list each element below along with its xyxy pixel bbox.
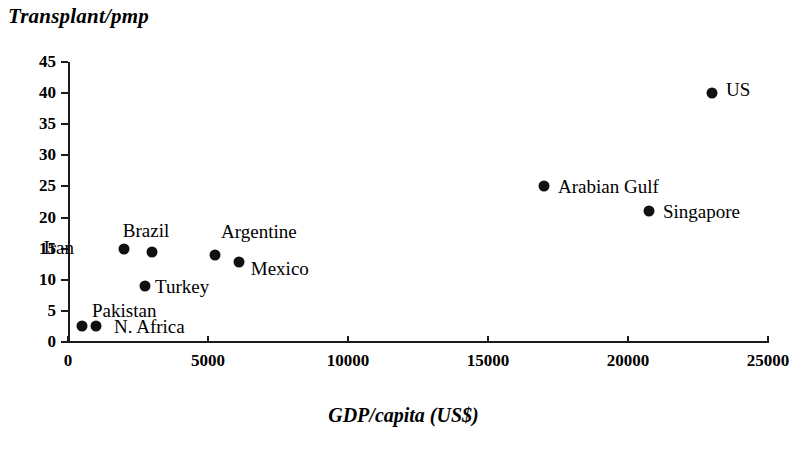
y-tick-mark [61,185,68,187]
y-tick-mark [61,310,68,312]
data-point-label: Iran [43,237,74,258]
chart-page: Transplant/pmp 051015202530354045 050001… [0,0,807,469]
x-tick-mark [347,336,349,343]
y-tick-mark [61,92,68,94]
data-point [707,88,718,99]
x-tick-mark [207,336,209,343]
y-tick-label: 30 [10,146,56,163]
data-point-label: Argentine [221,221,297,242]
y-tick-label: 20 [10,209,56,226]
y-tick-label: 25 [10,177,56,194]
y-axis-line [68,62,70,343]
x-tick-label: 0 [64,352,73,370]
data-point [539,181,550,192]
data-point [140,281,151,292]
x-axis-line [68,341,769,343]
x-tick-label: 25000 [747,352,790,370]
y-tick-mark [61,61,68,63]
x-tick-mark [67,336,69,343]
data-point-label: US [726,79,750,100]
x-tick-label: 10000 [327,352,370,370]
y-tick-mark [61,154,68,156]
data-point [147,246,158,257]
data-point-label: Arabian Gulf [558,176,659,197]
data-point [233,257,244,268]
x-tick-mark [767,336,769,343]
y-tick-label: 0 [10,333,56,350]
y-tick-label: 5 [10,302,56,319]
x-tick-label: 20000 [607,352,650,370]
data-point [77,321,88,332]
y-tick-mark [61,123,68,125]
y-tick-label: 40 [10,84,56,101]
x-tick-mark [627,336,629,343]
y-tick-label: 10 [10,271,56,288]
data-point-label: Brazil [123,220,169,241]
data-point [119,243,130,254]
x-tick-label: 5000 [191,352,225,370]
data-point-label: Turkey [155,276,209,297]
data-point [91,321,102,332]
data-point-label: Mexico [251,258,309,279]
y-tick-label: 45 [10,53,56,70]
x-tick-label: 15000 [467,352,510,370]
data-point [644,206,655,217]
data-point [210,249,221,260]
y-tick-mark [61,217,68,219]
x-tick-mark [487,336,489,343]
scatter-plot-area: 051015202530354045 050001000015000200002… [0,0,807,469]
y-tick-mark [61,279,68,281]
x-axis-title: GDP/capita (US$) [0,404,807,427]
data-point-label: Singapore [663,201,740,222]
y-tick-label: 35 [10,115,56,132]
data-point-label: N. Africa [114,316,185,337]
